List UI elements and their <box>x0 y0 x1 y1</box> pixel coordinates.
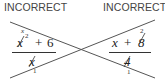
left-cancel-note-bottom: 1 <box>33 68 37 75</box>
left-fraction-bar <box>12 52 56 53</box>
right-cancel-note-top: 2 <box>140 28 144 35</box>
right-fraction-bar <box>109 52 151 53</box>
right-numerator-operator: + <box>124 36 131 49</box>
left-numerator-term: x <box>17 36 23 49</box>
right-numerator-constant: 8 <box>138 36 145 49</box>
right-numerator-term: x <box>112 36 118 49</box>
left-numerator-constant: 6 <box>47 36 54 49</box>
left-numerator-exponent: 2 <box>25 33 29 40</box>
right-cancel-note-bottom: 1 <box>127 69 131 76</box>
right-denominator-term: 4 <box>124 55 131 68</box>
left-numerator-operator: + <box>35 36 42 49</box>
left-cancel-note-top: x <box>21 28 24 35</box>
